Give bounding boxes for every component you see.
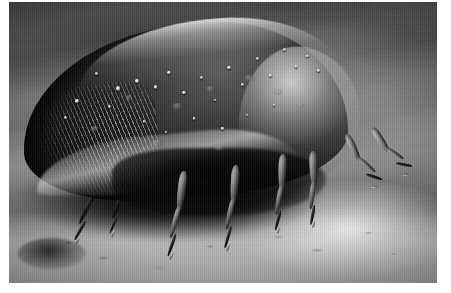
leg-claw (312, 221, 316, 228)
leg-claw (403, 174, 408, 176)
leg-segment-tarsus (365, 173, 382, 181)
leg-claw (276, 226, 280, 233)
leg-fore-leg-right (309, 151, 319, 219)
leg-mid-leg-left (171, 170, 188, 249)
leg-mid-leg-right (226, 165, 239, 241)
leg-segment-tibia (169, 204, 182, 237)
micrograph-figure: house dust mite scanning-electron-micros… (0, 0, 451, 293)
leg-claw (371, 186, 377, 189)
photograph-image (9, 2, 437, 283)
leg-palp-right (369, 127, 404, 175)
leg-fore-leg-left (276, 154, 286, 224)
dust-mite-specimen (9, 2, 437, 283)
leg-segment-tibia (384, 146, 405, 161)
leg-palp-left (343, 133, 374, 187)
figure-metadata: house dust mite scanning-electron-micros… (0, 0, 1, 1)
leg-segment-tibia (356, 155, 377, 173)
leg-segment-tarsus (395, 163, 411, 168)
leg-segment-tibia (224, 198, 235, 230)
subject-label: house dust mite (0, 0, 1, 1)
legs-anterior-group (9, 2, 437, 283)
